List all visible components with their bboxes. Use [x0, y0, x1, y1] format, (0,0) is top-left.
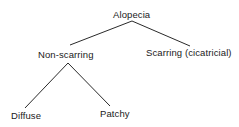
edge-alopecia-nonscarring: [70, 21, 132, 45]
node-alopecia: Alopecia: [113, 9, 150, 20]
node-non-scarring: Non-scarring: [38, 49, 94, 60]
node-patchy: Patchy: [100, 108, 130, 119]
node-scarring-cicatricial: Scarring (cicatricial): [146, 47, 232, 58]
node-diffuse: Diffuse: [11, 110, 41, 121]
edge-nonscarring-patchy: [68, 63, 110, 106]
edge-alopecia-scarring: [132, 21, 190, 46]
edge-nonscarring-diffuse: [25, 63, 68, 108]
